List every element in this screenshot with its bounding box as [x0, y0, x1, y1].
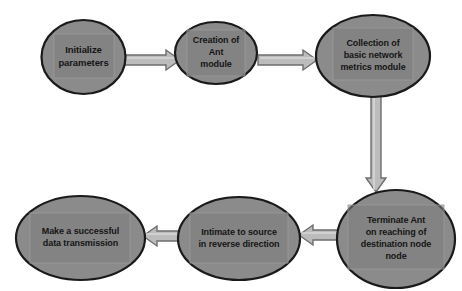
node-collection-of-basic-network-metrics-module-textbox — [333, 28, 413, 80]
arrow-collection-to-terminate-body — [366, 95, 386, 192]
node-collection-of-basic-network-metrics-module[interactable] — [316, 15, 430, 97]
node-creation-of-ant-module-textbox — [187, 30, 245, 76]
flowchart-svg — [0, 0, 462, 291]
node-make-a-successful-data-transmission-textbox — [30, 213, 130, 263]
arrow-initialize-to-creation — [124, 50, 180, 70]
node-terminate-ant-on-reaching-destination-textbox — [348, 205, 444, 269]
arrow-intimate-to-transmission — [143, 226, 181, 246]
arrow-collection-to-terminate — [366, 95, 386, 192]
node-make-a-successful-data-transmission[interactable] — [16, 196, 145, 280]
arrow-creation-to-collection — [258, 50, 317, 70]
node-creation-of-ant-module[interactable] — [175, 22, 257, 84]
arrow-intimate-to-transmission-body — [143, 226, 181, 246]
arrow-terminate-to-intimate-body — [299, 225, 338, 245]
arrow-initialize-to-creation-body — [124, 50, 180, 70]
node-layer — [16, 15, 455, 288]
arrow-terminate-to-intimate — [299, 225, 338, 245]
node-initialize-parameters-textbox — [54, 34, 114, 78]
flowchart-canvas: Initialize parametersCreation of Ant mod… — [0, 0, 462, 291]
node-initialize-parameters[interactable] — [42, 20, 126, 94]
arrow-creation-to-collection-body — [258, 50, 317, 70]
node-terminate-ant-on-reaching-destination[interactable] — [337, 190, 455, 288]
node-intimate-to-source-in-reverse-direction-textbox — [190, 213, 288, 263]
node-intimate-to-source-in-reverse-direction[interactable] — [178, 197, 300, 280]
